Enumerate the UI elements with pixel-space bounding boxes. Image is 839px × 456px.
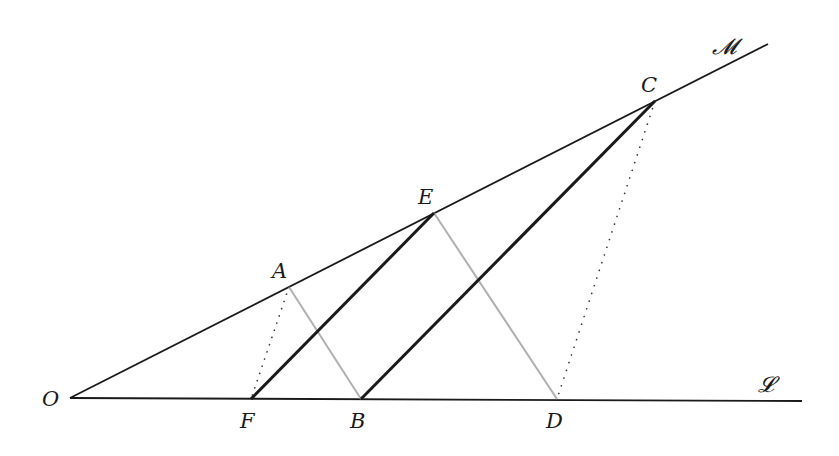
point-label-f: F — [239, 409, 256, 433]
line-l — [70, 398, 802, 401]
point-label-b: B — [349, 409, 365, 433]
geometry-diagram: O F B D A E C 𝓜 𝓛 — [0, 0, 839, 456]
point-label-e: E — [417, 185, 433, 209]
point-label-o: O — [42, 387, 59, 411]
line-label-m: 𝓜 — [712, 34, 743, 59]
point-label-d: D — [545, 409, 563, 433]
segment-bc — [361, 101, 655, 399]
line-m — [70, 44, 768, 398]
point-label-a: A — [270, 259, 287, 283]
line-label-l: 𝓛 — [758, 372, 780, 397]
segment-cd — [557, 101, 655, 399]
segment-ab — [289, 287, 361, 399]
point-label-c: C — [641, 73, 657, 97]
